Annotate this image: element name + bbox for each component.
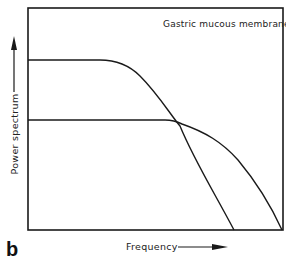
panel-label: b <box>6 238 18 261</box>
x-arrowhead-icon <box>212 244 228 250</box>
chart-title: Gastric mucous membrane <box>163 19 286 29</box>
figure: Gastric mucous membrane Power spectrum F… <box>0 0 286 264</box>
x-axis-label: Frequency <box>126 241 178 252</box>
y-axis-label: Power spectrum <box>9 94 20 175</box>
plot-frame <box>28 8 283 230</box>
y-arrowhead-icon <box>11 36 17 50</box>
curve-low-plateau <box>28 120 282 230</box>
curve-high-plateau <box>28 60 234 230</box>
